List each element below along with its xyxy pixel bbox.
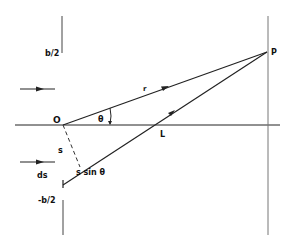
ray-ds-to-P: [63, 52, 267, 185]
incident-arrow-lower: [20, 160, 55, 165]
label-angle: θ: [98, 115, 104, 124]
label-bottom-edge: -b/2: [38, 196, 56, 205]
ray-O-to-P: [63, 52, 267, 125]
incident-arrow-upper: [20, 87, 55, 92]
label-top-edge: b/2: [45, 49, 59, 58]
label-element: ds: [37, 171, 48, 180]
label-point: P: [271, 48, 277, 57]
label-origin: O: [53, 115, 61, 125]
perpendicular-dashed: [63, 125, 80, 167]
label-offset: s: [58, 146, 63, 155]
label-lens-point: L: [160, 130, 165, 139]
label-radius: r: [143, 85, 147, 93]
label-path-difference: s sin θ: [76, 168, 106, 177]
diffraction-diagram: b/2 r θ O P L s ds s sin θ -b/2: [0, 0, 289, 248]
